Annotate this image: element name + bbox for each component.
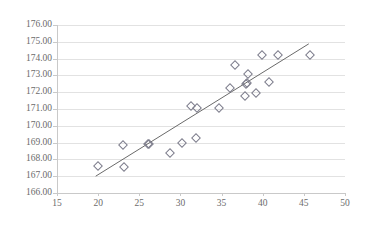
y-tick-label: 175.00	[0, 37, 52, 47]
plot-area	[57, 25, 345, 193]
y-tick-label: 176.00	[0, 20, 52, 30]
y-axis-line	[57, 25, 58, 194]
x-tick-mark	[304, 193, 305, 196]
y-tick-label: 169.00	[0, 138, 52, 148]
x-tick-label: 30	[168, 199, 192, 209]
x-tick-label: 25	[127, 199, 151, 209]
y-tick-label: 167.00	[0, 171, 52, 181]
y-tick-label: 173.00	[0, 70, 52, 80]
x-tick-mark	[263, 193, 264, 196]
x-axis-line	[57, 193, 346, 194]
y-tick-label: 168.00	[0, 154, 52, 164]
x-tick-mark	[345, 193, 346, 196]
y-tick-label: 172.00	[0, 87, 52, 97]
x-tick-label: 15	[45, 199, 69, 209]
y-tick-label: 166.00	[0, 188, 52, 198]
x-tick-label: 20	[86, 199, 110, 209]
y-tick-label: 174.00	[0, 54, 52, 64]
x-tick-label: 45	[292, 199, 316, 209]
scatter-chart: 166.00167.00168.00169.00170.00171.00172.…	[0, 0, 386, 231]
y-tick-label: 171.00	[0, 104, 52, 114]
x-tick-mark	[139, 193, 140, 196]
y-tick-label: 170.00	[0, 121, 52, 131]
x-tick-label: 35	[210, 199, 234, 209]
x-tick-mark	[98, 193, 99, 196]
x-tick-mark	[180, 193, 181, 196]
trendline-segment	[96, 44, 309, 176]
x-tick-label: 40	[251, 199, 275, 209]
x-tick-label: 50	[333, 199, 357, 209]
x-tick-mark	[57, 193, 58, 196]
x-tick-mark	[222, 193, 223, 196]
